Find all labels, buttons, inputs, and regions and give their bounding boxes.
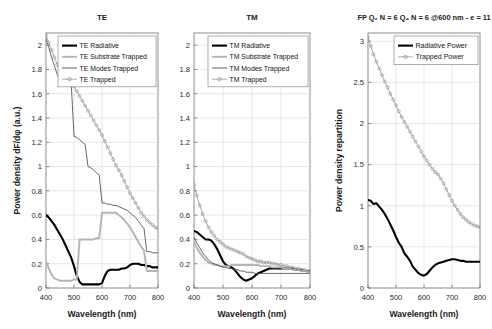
legend-label: TE Radiative [80, 42, 120, 49]
y-tick-label: 0.6 [179, 211, 190, 220]
tm-chart: TM00.20.40.60.811.21.41.61.8240050060070… [164, 0, 328, 329]
legend-label: TE Substrate Trapped [80, 53, 148, 61]
panel-fp: FP Q₂ N = 6 Q₄ N = 6 @600 nm - e = 1100.… [328, 0, 492, 329]
x-tick-label: 500 [390, 293, 403, 302]
y-tick-label: 1.4 [31, 114, 42, 123]
x-axis-label: Wavelength (nm) [390, 309, 459, 319]
legend: TE RadiativeTE Substrate TrappedTE Modes… [58, 36, 156, 87]
x-tick-label: 500 [217, 293, 230, 302]
y-tick-label: 1.6 [179, 90, 190, 99]
y-tick-label: 1 [360, 202, 364, 211]
y-tick-label: 1.6 [31, 90, 42, 99]
y-tick-label: 0.2 [179, 260, 190, 269]
fp-chart: FP Q₂ N = 6 Q₄ N = 6 @600 nm - e = 1100.… [328, 0, 492, 329]
x-tick-label: 700 [124, 293, 137, 302]
x-tick-label: 800 [474, 293, 487, 302]
y-tick-label: 0.4 [179, 235, 190, 244]
x-axis-label: Wavelength (nm) [68, 309, 137, 319]
x-tick-label: 400 [188, 293, 201, 302]
y-tick-label: 0 [38, 284, 42, 293]
x-tick-label: 800 [304, 293, 317, 302]
y-tick-label: 0.4 [31, 235, 42, 244]
y-tick-label: 1.5 [353, 160, 364, 169]
legend: TM RadiativeTM Substrate TrappedTM Modes… [208, 36, 308, 87]
y-tick-label: 0.6 [31, 211, 42, 220]
legend-label: TE Trapped [80, 76, 116, 84]
panel-tm: TM00.20.40.60.811.21.41.61.8240050060070… [164, 0, 328, 329]
y-tick-label: 0.5 [353, 243, 364, 252]
figure-container: TE00.20.40.60.811.21.41.61.8240050060070… [0, 0, 492, 329]
legend: Radiative PowerTrapped Power [394, 36, 478, 64]
y-tick-label: 0 [186, 284, 190, 293]
panel-te: TE00.20.40.60.811.21.41.61.8240050060070… [0, 0, 164, 329]
y-tick-label: 1 [186, 162, 190, 171]
y-tick-label: 1.4 [179, 114, 190, 123]
y-tick-label: 0 [360, 284, 364, 293]
panel-title: TE [97, 13, 108, 22]
y-tick-label: 2.5 [353, 78, 364, 87]
legend-label: TM Radiative [230, 42, 271, 49]
x-tick-label: 400 [362, 293, 375, 302]
y-axis-label: Power density repartition [334, 109, 344, 212]
y-tick-label: 1.8 [179, 65, 190, 74]
y-tick-label: 1 [38, 162, 42, 171]
y-tick-label: 1.2 [179, 138, 190, 147]
x-tick-label: 600 [418, 293, 431, 302]
y-tick-label: 1.8 [31, 65, 42, 74]
y-tick-label: 2 [186, 41, 190, 50]
x-tick-label: 700 [446, 293, 459, 302]
te-chart: TE00.20.40.60.811.21.41.61.8240050060070… [0, 0, 164, 329]
x-tick-label: 600 [96, 293, 109, 302]
x-tick-label: 800 [152, 293, 164, 302]
x-tick-label: 600 [246, 293, 259, 302]
x-tick-label: 400 [40, 293, 53, 302]
legend-label: TM Substrate Trapped [230, 53, 299, 61]
y-tick-label: 3 [360, 37, 364, 46]
x-tick-label: 700 [275, 293, 288, 302]
y-tick-label: 2 [38, 41, 42, 50]
legend-label: Radiative Power [416, 42, 468, 50]
panel-title: FP Q₂ N = 6 Q₄ N = 6 @600 nm - e = 11 [357, 13, 490, 22]
legend-label: TM Modes Trapped [230, 65, 290, 73]
legend-label: TE Modes Trapped [80, 65, 139, 73]
x-axis-label: Wavelength (nm) [218, 309, 287, 319]
y-tick-label: 2 [360, 119, 364, 128]
y-tick-label: 0.8 [31, 187, 42, 196]
y-tick-label: 0.8 [179, 187, 190, 196]
legend-label: Trapped Power [416, 53, 465, 61]
y-tick-label: 0.2 [31, 260, 42, 269]
y-tick-label: 1.2 [31, 138, 42, 147]
y-axis-label: Power density dF/dφ (a.u.) [12, 106, 22, 214]
legend-label: TM Trapped [230, 76, 267, 84]
panel-title: TM [246, 13, 258, 22]
x-tick-label: 500 [68, 293, 81, 302]
